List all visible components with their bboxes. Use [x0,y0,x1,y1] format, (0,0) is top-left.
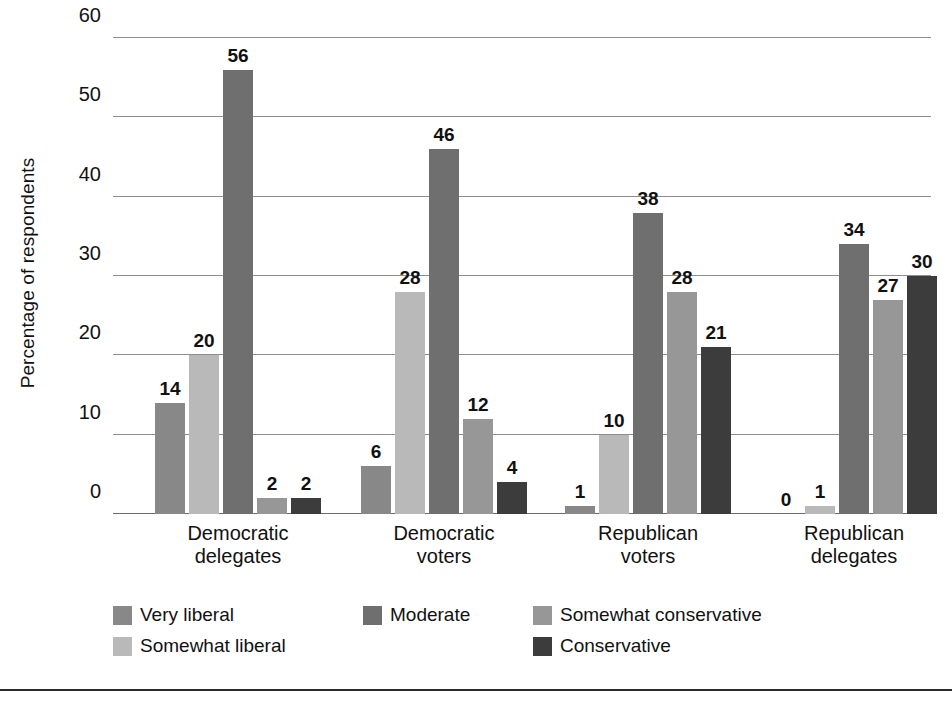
legend-swatch [113,606,132,625]
bar-group: 14205622 [155,38,321,514]
bar[interactable] [395,292,425,514]
legend-swatch [533,606,552,625]
bar[interactable] [463,419,493,514]
bar[interactable] [565,506,595,514]
bar-value-label: 34 [843,220,864,239]
bar-value-label: 4 [507,458,518,477]
bar-group: 62846124 [361,38,527,514]
bar[interactable] [633,213,663,514]
y-axis-tick-label: 60 [79,4,101,27]
y-axis-tick-label: 30 [79,242,101,265]
bar-value-label: 1 [575,482,586,501]
legend-label: Conservative [560,635,671,657]
x-axis-category-line: Republican [731,522,952,545]
bar-value-label: 14 [159,379,180,398]
bar[interactable] [805,506,835,514]
bar[interactable] [907,276,937,514]
bar[interactable] [839,244,869,514]
bar-value-label: 12 [467,395,488,414]
x-axis-category-line: delegates [731,545,952,568]
bar[interactable] [361,466,391,514]
x-axis-category-label: Republicandelegates [731,522,952,568]
bar-chart-figure: Percentage of respondents 0102030405060 … [0,0,952,705]
bar-value-label: 30 [911,252,932,271]
legend: Very liberalModerateSomewhat conservativ… [113,604,873,666]
bar[interactable] [429,149,459,514]
bar[interactable] [873,300,903,514]
bar-value-label: 10 [603,411,624,430]
legend-swatch [533,637,552,656]
bar-value-label: 20 [193,331,214,350]
y-axis-tick-label: 0 [90,480,101,503]
bar[interactable] [223,70,253,514]
legend-item[interactable]: Somewhat liberal [113,635,286,657]
bar-value-label: 1 [815,482,826,501]
legend-label: Moderate [390,604,470,626]
bar[interactable] [291,498,321,514]
legend-item[interactable]: Very liberal [113,604,234,626]
bar[interactable] [155,403,185,514]
bar-value-label: 0 [781,490,792,509]
y-axis-title: Percentage of respondents [17,93,39,453]
y-axis-tick-label: 20 [79,321,101,344]
bar[interactable] [667,292,697,514]
bar-value-label: 21 [705,323,726,342]
bottom-rule-divider [0,689,952,691]
y-axis-tick-label: 40 [79,162,101,185]
bar-value-label: 2 [301,474,312,493]
bar-value-label: 6 [371,442,382,461]
bars-layer: 142056226284612411038282101342730 [113,38,931,514]
bar[interactable] [257,498,287,514]
legend-label: Somewhat conservative [560,604,762,626]
bar[interactable] [701,347,731,514]
bar[interactable] [497,482,527,514]
legend-item[interactable]: Somewhat conservative [533,604,762,626]
legend-item[interactable]: Moderate [363,604,470,626]
bar-group: 110382821 [565,38,731,514]
bar-value-label: 56 [227,46,248,65]
bar-value-label: 28 [671,268,692,287]
legend-label: Somewhat liberal [140,635,286,657]
y-axis-tick-label: 50 [79,83,101,106]
bar-value-label: 46 [433,125,454,144]
bar-value-label: 38 [637,189,658,208]
legend-swatch [113,637,132,656]
bar-group: 01342730 [771,38,937,514]
bar[interactable] [599,435,629,514]
bar-value-label: 28 [399,268,420,287]
legend-label: Very liberal [140,604,234,626]
y-axis-tick-label: 10 [79,400,101,423]
bar-value-label: 2 [267,474,278,493]
legend-swatch [363,606,382,625]
bar[interactable] [189,355,219,514]
bar-value-label: 27 [877,276,898,295]
plot-area: 0102030405060 14205622628461241103828210… [113,38,931,514]
legend-item[interactable]: Conservative [533,635,671,657]
